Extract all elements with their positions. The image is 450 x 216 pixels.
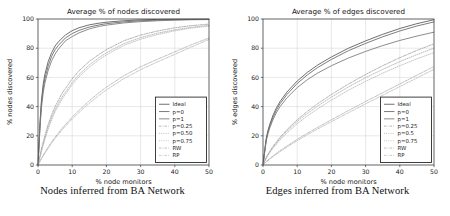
legend-label-ideal: Ideal bbox=[173, 101, 186, 107]
chart-title: Average % of edges discovered bbox=[292, 7, 405, 16]
legend-label-p075: p=0.75 bbox=[173, 138, 193, 145]
y-tick-label: 80 bbox=[251, 44, 259, 51]
y-axis-label: % nodes discovered bbox=[6, 59, 14, 125]
x-tick-label: 40 bbox=[171, 168, 179, 175]
y-tick-label: 20 bbox=[26, 132, 34, 139]
legend: Idealp=0p=1p=0.25p=0.5p=0.75RWRP bbox=[381, 97, 432, 162]
panel-nodes: 01020304050020406080100Average % of node… bbox=[0, 0, 225, 216]
x-tick-label: 10 bbox=[68, 168, 76, 175]
legend: Idealp=0p=1p=0.25p=0.50p=0.75RWRP bbox=[156, 97, 207, 162]
legend-label-p1: p=1 bbox=[398, 116, 409, 123]
x-tick-label: 50 bbox=[205, 168, 213, 175]
x-axis-label: % node monitors bbox=[95, 178, 152, 186]
legend-label-p0: p=0 bbox=[173, 109, 185, 116]
caption-nodes: Nodes inferred from BA Network bbox=[0, 185, 225, 196]
figure-container: 01020304050020406080100Average % of node… bbox=[0, 0, 450, 216]
chart-svg-nodes: 01020304050020406080100Average % of node… bbox=[0, 0, 225, 186]
legend-label-p025: p=0.25 bbox=[173, 123, 193, 130]
legend-label-p050: p=0.50 bbox=[173, 130, 194, 137]
chart-nodes-discovered: 01020304050020406080100Average % of node… bbox=[0, 0, 225, 186]
x-tick-label: 50 bbox=[430, 168, 438, 175]
chart-title: Average % of nodes discovered bbox=[67, 7, 180, 16]
legend-label-p0: p=0 bbox=[398, 109, 410, 116]
x-tick-label: 30 bbox=[137, 168, 145, 175]
y-tick-label: 0 bbox=[30, 161, 34, 168]
legend-label-rp: RP bbox=[173, 152, 181, 158]
x-tick-label: 0 bbox=[36, 168, 40, 175]
y-tick-label: 60 bbox=[251, 74, 259, 81]
y-axis-label: % edges discovered bbox=[231, 59, 239, 125]
legend-label-ideal: Ideal bbox=[398, 101, 411, 107]
caption-edges: Edges inferred from BA Network bbox=[225, 185, 450, 196]
legend-label-p075: p=0.75 bbox=[398, 138, 418, 145]
chart-edges-discovered: 01020304050020406080100Average % of edge… bbox=[225, 0, 450, 186]
y-tick-label: 100 bbox=[247, 15, 259, 22]
y-tick-label: 60 bbox=[26, 74, 34, 81]
y-tick-label: 100 bbox=[22, 15, 34, 22]
y-tick-label: 80 bbox=[26, 44, 34, 51]
x-tick-label: 40 bbox=[396, 168, 404, 175]
chart-svg-edges: 01020304050020406080100Average % of edge… bbox=[225, 0, 450, 186]
legend-label-rw: RW bbox=[398, 145, 408, 151]
legend-label-p05: p=0.5 bbox=[398, 130, 415, 137]
legend-label-rw: RW bbox=[173, 145, 183, 151]
panel-edges: 01020304050020406080100Average % of edge… bbox=[225, 0, 450, 216]
y-tick-label: 0 bbox=[255, 161, 259, 168]
x-tick-label: 20 bbox=[327, 168, 335, 175]
y-tick-label: 40 bbox=[26, 103, 34, 110]
y-tick-label: 40 bbox=[251, 103, 259, 110]
legend-label-p025: p=0.25 bbox=[398, 123, 418, 130]
x-tick-label: 0 bbox=[261, 168, 265, 175]
x-tick-label: 30 bbox=[362, 168, 370, 175]
x-tick-label: 20 bbox=[102, 168, 110, 175]
y-tick-label: 20 bbox=[251, 132, 259, 139]
legend-label-p1: p=1 bbox=[173, 116, 184, 123]
x-tick-label: 10 bbox=[293, 168, 301, 175]
legend-label-rp: RP bbox=[398, 152, 406, 158]
x-axis-label: % node monitors bbox=[320, 178, 377, 186]
